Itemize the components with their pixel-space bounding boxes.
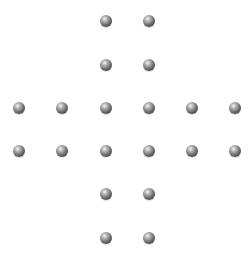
ball-peg[interactable] <box>143 145 155 157</box>
ball-peg[interactable] <box>143 59 155 71</box>
ball-peg[interactable] <box>229 102 241 114</box>
ball-peg[interactable] <box>13 102 25 114</box>
peg-board <box>0 0 252 256</box>
ball-peg[interactable] <box>143 232 155 244</box>
ball-peg[interactable] <box>56 145 68 157</box>
ball-peg[interactable] <box>100 102 112 114</box>
ball-peg[interactable] <box>56 102 68 114</box>
ball-peg[interactable] <box>143 188 155 200</box>
ball-peg[interactable] <box>143 15 155 27</box>
ball-peg[interactable] <box>100 145 112 157</box>
ball-peg[interactable] <box>100 59 112 71</box>
ball-peg[interactable] <box>100 232 112 244</box>
ball-peg[interactable] <box>143 102 155 114</box>
ball-peg[interactable] <box>186 145 198 157</box>
ball-peg[interactable] <box>100 188 112 200</box>
ball-peg[interactable] <box>100 15 112 27</box>
ball-peg[interactable] <box>13 145 25 157</box>
ball-peg[interactable] <box>229 145 241 157</box>
ball-peg[interactable] <box>186 102 198 114</box>
